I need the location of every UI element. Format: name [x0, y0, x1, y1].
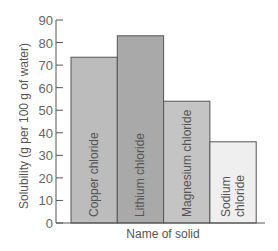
y-axis-title: Solubility (g per 100 g of water) — [17, 43, 31, 209]
y-tick-label: 40 — [39, 126, 53, 141]
y-tick-label: 90 — [39, 13, 53, 28]
bar-label: chloride — [233, 175, 247, 217]
bar-label: Lithium chloride — [133, 133, 147, 217]
solubility-bar-chart: Copper chlorideLithium chlorideMagnesium… — [0, 0, 278, 251]
y-tick-label: 10 — [39, 193, 53, 208]
y-tick-label: 20 — [39, 171, 53, 186]
x-axis-title: Name of solid — [126, 227, 199, 241]
y-tick-label: 80 — [39, 36, 53, 51]
y-tick-label: 50 — [39, 103, 53, 118]
bar-label: Magnesium chloride — [180, 109, 194, 217]
y-tick-label: 70 — [39, 58, 53, 73]
bar-label: Copper chloride — [87, 132, 101, 217]
y-tick-label: 60 — [39, 81, 53, 96]
bar-label: Sodium — [219, 176, 233, 217]
y-ticks: 0102030405060708090 — [39, 13, 63, 231]
y-tick-label: 0 — [46, 216, 53, 231]
y-tick-label: 30 — [39, 148, 53, 163]
